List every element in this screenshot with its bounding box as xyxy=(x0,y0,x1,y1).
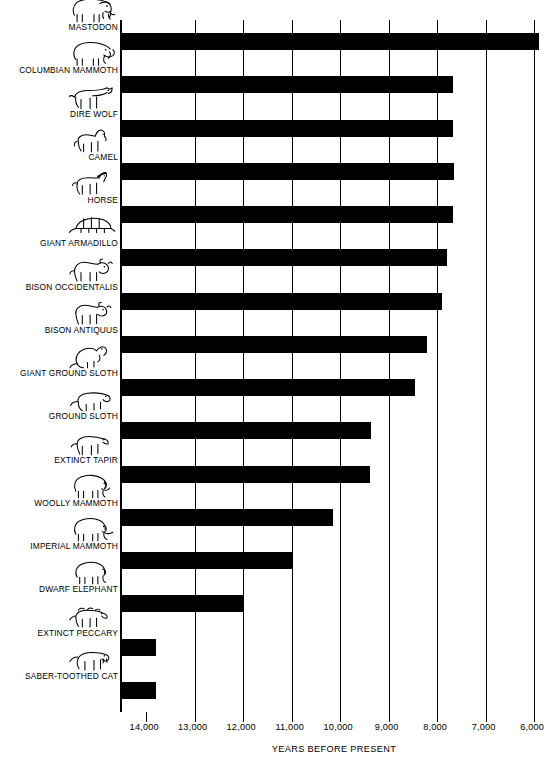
woolly-mammoth-icon xyxy=(68,473,116,499)
bar xyxy=(122,163,454,180)
saber-toothed-cat-icon xyxy=(68,646,116,672)
gridline-7000 xyxy=(486,20,487,712)
species-row: IMPERIAL MAMMOTH xyxy=(0,516,118,559)
axis-tick-11000 xyxy=(292,712,293,722)
bar xyxy=(122,249,447,266)
bar xyxy=(122,682,156,699)
extinction-timeline-chart: MASTODONCOLUMBIAN MAMMOTHDIRE WOLFCAMELH… xyxy=(0,0,550,769)
columbian-mammoth-icon xyxy=(68,40,116,66)
species-label: SABER-TOOTHED CAT xyxy=(25,672,118,681)
species-label: IMPERIAL MAMMOTH xyxy=(30,542,118,551)
camel-icon xyxy=(68,127,116,153)
species-row: WOOLLY MAMMOTH xyxy=(0,473,118,516)
species-label: GIANT ARMADILLO xyxy=(40,239,118,248)
axis-tick-9000 xyxy=(389,712,390,722)
horse-icon xyxy=(68,170,116,196)
plot-area xyxy=(120,20,539,712)
giant-armadillo-icon xyxy=(68,213,116,239)
axis-tick-14000 xyxy=(146,712,147,722)
species-label: BISON ANTIQUUS xyxy=(45,326,118,335)
bar xyxy=(122,552,292,569)
bar xyxy=(122,120,453,137)
mastodon-icon xyxy=(68,0,116,23)
species-row: GIANT GROUND SLOTH xyxy=(0,343,118,386)
bar xyxy=(122,422,371,439)
species-label: EXTINCT TAPIR xyxy=(54,456,118,465)
bar xyxy=(122,509,333,526)
species-row: BISON ANTIQUUS xyxy=(0,300,118,343)
bar xyxy=(122,206,453,223)
species-row: COLUMBIAN MAMMOTH xyxy=(0,40,118,83)
species-label: EXTINCT PECCARY xyxy=(37,629,118,638)
x-tick-label: 10,000 xyxy=(324,722,353,732)
giant-ground-sloth-icon xyxy=(68,343,116,369)
species-row: GROUND SLOTH xyxy=(0,386,118,429)
bar xyxy=(122,639,156,656)
imperial-mammoth-icon xyxy=(68,516,116,542)
species-row: DWARF ELEPHANT xyxy=(0,559,118,602)
x-tick-label: 9,000 xyxy=(375,722,399,732)
ground-sloth-icon xyxy=(68,386,116,412)
species-row: SABER-TOOTHED CAT xyxy=(0,646,118,689)
x-axis-title: YEARS BEFORE PRESENT xyxy=(0,744,550,754)
x-axis-title-text: YEARS BEFORE PRESENT xyxy=(272,744,396,754)
species-label: COLUMBIAN MAMMOTH xyxy=(19,66,118,75)
species-label-column: MASTODONCOLUMBIAN MAMMOTHDIRE WOLFCAMELH… xyxy=(0,20,120,712)
species-row: EXTINCT PECCARY xyxy=(0,603,118,646)
axis-tick-13000 xyxy=(195,712,196,722)
species-label: GIANT GROUND SLOTH xyxy=(20,369,118,378)
species-label: MASTODON xyxy=(69,23,118,32)
bison-occidentalis-icon xyxy=(68,257,116,283)
extinct-tapir-icon xyxy=(68,430,116,456)
species-row: GIANT ARMADILLO xyxy=(0,213,118,256)
bar xyxy=(122,76,453,93)
x-tick-label: 6,000 xyxy=(520,722,544,732)
bar xyxy=(122,33,539,50)
x-tick-label: 7,000 xyxy=(472,722,496,732)
bison-antiquus-icon xyxy=(68,300,116,326)
axis-tick-7000 xyxy=(486,712,487,722)
species-label: DWARF ELEPHANT xyxy=(39,585,118,594)
species-label: WOOLLY MAMMOTH xyxy=(34,499,118,508)
species-label: DIRE WOLF xyxy=(70,110,118,119)
axis-tick-8000 xyxy=(437,712,438,722)
bar xyxy=(122,379,415,396)
species-label: GROUND SLOTH xyxy=(49,412,118,421)
axis-tick-6000 xyxy=(534,712,535,722)
x-tick-label: 12,000 xyxy=(227,722,256,732)
x-tick-label: 14,000 xyxy=(130,722,159,732)
species-label: HORSE xyxy=(87,196,118,205)
bar xyxy=(122,595,243,612)
species-label: BISON OCCIDENTALIS xyxy=(26,283,118,292)
species-row: CAMEL xyxy=(0,127,118,170)
x-tick-label: 13,000 xyxy=(178,722,207,732)
species-row: MASTODON xyxy=(0,0,118,40)
dwarf-elephant-icon xyxy=(68,559,116,585)
bar xyxy=(122,293,442,310)
x-tick-label: 11,000 xyxy=(275,722,304,732)
species-row: BISON OCCIDENTALIS xyxy=(0,257,118,300)
species-row: DIRE WOLF xyxy=(0,84,118,127)
species-label: CAMEL xyxy=(88,153,118,162)
bar xyxy=(122,466,370,483)
x-tick-label: 8,000 xyxy=(423,722,447,732)
extinct-peccary-icon xyxy=(68,603,116,629)
bar xyxy=(122,336,427,353)
axis-tick-12000 xyxy=(243,712,244,722)
gridline-6000 xyxy=(534,20,535,712)
x-axis-tick-labels: 14,00013,00012,00011,00010,0009,0008,000… xyxy=(0,722,550,736)
dire-wolf-icon xyxy=(68,84,116,110)
axis-tick-10000 xyxy=(340,712,341,722)
species-row: EXTINCT TAPIR xyxy=(0,430,118,473)
species-row: HORSE xyxy=(0,170,118,213)
